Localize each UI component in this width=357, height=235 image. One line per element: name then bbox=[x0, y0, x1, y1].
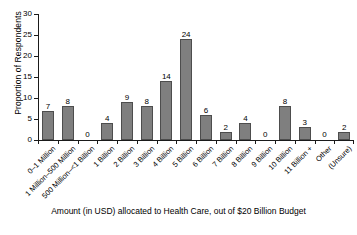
y-tick: 10 bbox=[34, 98, 38, 99]
bar-value-label: 24 bbox=[182, 30, 191, 39]
y-tick-label: 20 bbox=[23, 51, 32, 60]
bar: 8 bbox=[141, 106, 153, 140]
bar-value-label: 8 bbox=[144, 97, 148, 106]
x-category-label: 2 Billion bbox=[111, 144, 136, 169]
bar-value-label: 3 bbox=[302, 118, 306, 127]
bar-value-label: 2 bbox=[223, 123, 227, 132]
y-tick-label: 30 bbox=[23, 9, 32, 18]
x-category-label: 1 Billion bbox=[92, 144, 117, 169]
y-tick: 30 bbox=[34, 14, 38, 15]
x-axis-caption: Amount (in USD) allocated to Health Care… bbox=[0, 206, 357, 216]
bar: 9 bbox=[121, 102, 133, 140]
bar-value-label: 4 bbox=[243, 114, 247, 123]
y-tick-label: 10 bbox=[23, 93, 32, 102]
plot-area: 051015202530 780498142462408302 bbox=[38, 14, 354, 141]
bar: 4 bbox=[239, 123, 251, 140]
bar-value-label: 9 bbox=[125, 93, 129, 102]
y-axis-line bbox=[38, 14, 39, 141]
bar: 14 bbox=[160, 81, 172, 140]
x-category-label: 6 Billion bbox=[190, 144, 215, 169]
bar-value-label: 2 bbox=[342, 123, 346, 132]
bar: 2 bbox=[338, 132, 350, 140]
bar: 8 bbox=[279, 106, 291, 140]
bar-value-label: 7 bbox=[46, 102, 50, 111]
y-tick: 5 bbox=[34, 119, 38, 120]
y-tick-label: 0 bbox=[28, 135, 32, 144]
y-axis-title: Proportion of Respondents bbox=[13, 0, 23, 138]
x-category-label: 5 Billion bbox=[171, 144, 196, 169]
bar: 4 bbox=[101, 123, 113, 140]
bar-chart-figure: Proportion of Respondents 051015202530 7… bbox=[0, 0, 357, 235]
bar: 6 bbox=[200, 115, 212, 140]
bar: 3 bbox=[299, 127, 311, 140]
y-tick-label: 15 bbox=[23, 72, 32, 81]
y-tick: 25 bbox=[34, 35, 38, 36]
bar-value-label: 8 bbox=[283, 97, 287, 106]
bar-value-label: 14 bbox=[162, 72, 171, 81]
y-tick: 15 bbox=[34, 77, 38, 78]
x-axis-category-labels: 0–1 Million1 Million–500 Million500 Mill… bbox=[38, 144, 354, 206]
caption-line-1: Amount (in USD) allocated to Health Care… bbox=[51, 206, 306, 216]
bar: 7 bbox=[42, 111, 54, 140]
bar: 24 bbox=[180, 39, 192, 140]
bar-value-label: 0 bbox=[85, 130, 89, 139]
y-tick: 20 bbox=[34, 56, 38, 57]
y-tick-label: 25 bbox=[23, 30, 32, 39]
bar-value-label: 0 bbox=[263, 130, 267, 139]
bar: 2 bbox=[220, 132, 232, 140]
bar-value-label: 6 bbox=[204, 106, 208, 115]
bar-value-label: 4 bbox=[105, 114, 109, 123]
bar: 8 bbox=[62, 106, 74, 140]
bar-value-label: 8 bbox=[65, 97, 69, 106]
y-tick-label: 5 bbox=[28, 114, 32, 123]
bar-value-label: 0 bbox=[322, 130, 326, 139]
